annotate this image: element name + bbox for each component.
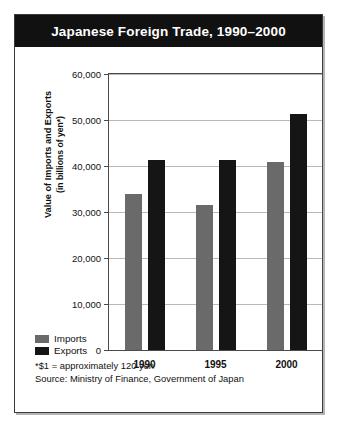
bar-exports-1990 [148, 160, 165, 350]
legend-label: Imports [54, 333, 87, 344]
legend-item-imports: Imports [35, 333, 87, 344]
y-tick-label: 10,000 [72, 299, 101, 310]
footnote-text: *$1 = approximately 120 yen [35, 359, 244, 372]
bar-exports-2000 [290, 114, 307, 350]
plot-area: 010,00020,00030,00040,00050,00060,000 19… [108, 73, 323, 351]
legend-label: Exports [54, 345, 87, 356]
y-tick-label: 30,000 [72, 207, 101, 218]
exports-swatch [35, 347, 49, 355]
chart-title-bar: Japanese Foreign Trade, 1990–2000 [15, 15, 322, 47]
y-axis-title-line2: (in billions of yen*) [54, 116, 64, 193]
bar-exports-1995 [219, 160, 236, 350]
bar-group [251, 74, 322, 350]
bar-group [180, 74, 251, 350]
imports-swatch [35, 335, 49, 343]
chart-notes: *$1 = approximately 120 yen Source: Mini… [35, 359, 244, 385]
y-axis-title-line1: Value of Imports and Exports [43, 91, 53, 218]
y-tick-label: 0 [96, 345, 101, 356]
y-tick-label: 50,000 [72, 115, 101, 126]
bar-group [109, 74, 180, 350]
chart-figure: Japanese Foreign Trade, 1990–2000 Value … [14, 14, 323, 413]
y-tick-label: 60,000 [72, 69, 101, 80]
chart-title: Japanese Foreign Trade, 1990–2000 [51, 24, 286, 39]
bar-imports-2000 [267, 162, 284, 350]
bar-series-container [109, 74, 322, 350]
y-tick-label: 20,000 [72, 253, 101, 264]
y-tick-label: 40,000 [72, 161, 101, 172]
y-tick-mark [104, 350, 109, 351]
y-axis-title: Value of Imports and Exports (in billion… [43, 70, 66, 240]
bar-imports-1990 [125, 194, 142, 350]
legend-item-exports: Exports [35, 345, 87, 356]
x-tick-label: 2000 [275, 359, 297, 370]
chart-legend: ImportsExports [35, 333, 87, 357]
source-text: Source: Ministry of Finance, Government … [35, 372, 244, 385]
bar-imports-1995 [196, 205, 213, 350]
